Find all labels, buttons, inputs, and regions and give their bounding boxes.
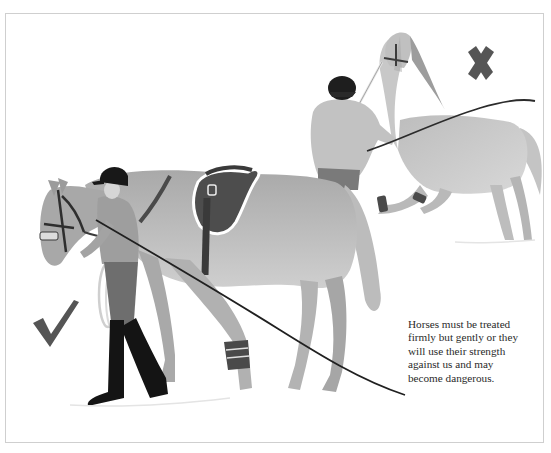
horse-handling-illustration [0,0,551,453]
caption-line-1: Horses must be treated [408,318,510,330]
caption-line-2: firmly but gently or they [408,331,518,343]
caption-line-3: will use their strength [408,345,505,357]
caption-line-4: against us and may [408,358,493,370]
rearing-horse [377,33,542,240]
caption-line-5: become dangerous. [408,372,494,384]
checkmark-icon [33,300,79,347]
caption-text: Horses must be treated firmly but gently… [408,318,548,385]
calm-horse [40,167,381,392]
cross-icon [468,46,494,80]
